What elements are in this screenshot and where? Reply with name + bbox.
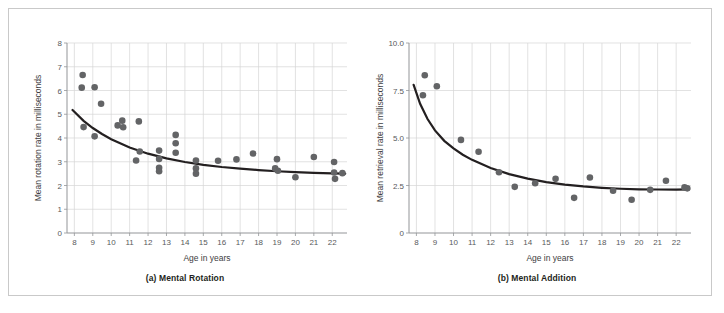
data-point [292,174,299,181]
x-tick-label: 12 [144,238,153,247]
data-point [458,137,465,144]
x-tick-label: 17 [236,238,245,247]
x-tick-label: 20 [635,238,644,247]
x-tick-label: 15 [199,238,208,247]
x-tick-label: 19 [616,238,625,247]
panel-b-caption: (b) Mental Addition [361,273,713,283]
data-point [136,118,143,125]
plot-mental-addition: 02.55.07.510.089101112131415161718192021… [361,9,713,297]
data-point [421,72,428,79]
data-point [193,157,200,164]
y-tick-label: 7 [58,63,63,72]
data-point [193,170,200,177]
data-point [98,101,105,108]
fit-curve [414,85,690,190]
x-tick-label: 17 [579,238,588,247]
y-axis-title: Mean rotation rate in milliseconds [33,75,43,202]
data-point [120,124,127,131]
fit-curve [73,110,346,174]
plot-mental-rotation: 0123456788910111213141516171819202122Age… [9,9,361,297]
x-tick-label: 13 [505,238,514,247]
x-tick-label: 11 [125,238,134,247]
y-tick-label: 10.0 [388,39,404,48]
panel-mental-rotation: 0123456788910111213141516171819202122Age… [9,9,361,297]
x-tick-label: 10 [449,238,458,247]
data-point [552,176,559,183]
data-point [684,185,691,192]
data-point [172,140,179,147]
x-tick-label: 8 [414,238,419,247]
data-point [275,167,282,174]
y-tick-label: 5.0 [393,134,405,143]
data-point [133,157,140,164]
x-tick-label: 16 [560,238,569,247]
data-point [91,84,98,91]
y-tick-label: 6 [58,87,63,96]
y-tick-label: 2.5 [393,182,405,191]
x-tick-label: 21 [309,238,318,247]
y-tick-label: 8 [58,39,63,48]
x-tick-label: 13 [162,238,171,247]
y-tick-label: 1 [58,205,63,214]
data-point [119,117,126,124]
y-axis-title: Mean retrieval rate in milliseconds [375,74,385,203]
x-tick-label: 9 [91,238,96,247]
data-point [663,177,670,184]
data-point [250,150,257,157]
panel-a-caption: (a) Mental Rotation [9,273,361,283]
x-tick-label: 21 [653,238,662,247]
data-point [311,154,318,161]
y-tick-label: 5 [58,110,63,119]
x-tick-label: 18 [254,238,263,247]
y-tick-label: 4 [58,134,63,143]
y-tick-label: 3 [58,158,63,167]
data-point [339,170,346,177]
data-point [156,147,163,154]
y-tick-label: 7.5 [393,87,405,96]
x-tick-label: 15 [542,238,551,247]
figure-frame: 0123456788910111213141516171819202122Age… [8,8,712,296]
panel-mental-addition: 02.55.07.510.089101112131415161718192021… [361,9,713,297]
x-tick-label: 14 [523,238,532,247]
x-tick-label: 10 [107,238,116,247]
data-point [136,148,143,155]
x-tick-label: 12 [486,238,495,247]
data-point [610,188,617,195]
data-point [156,156,163,163]
x-tick-label: 11 [468,238,477,247]
data-point [434,83,441,90]
x-tick-label: 9 [433,238,438,247]
x-tick-label: 16 [217,238,226,247]
data-point [172,132,179,139]
data-point [156,168,163,175]
data-point [91,133,98,140]
x-tick-label: 14 [180,238,189,247]
y-tick-label: 0 [400,229,405,238]
data-point [420,92,427,99]
data-point [215,158,222,165]
data-point [475,148,482,155]
data-point [628,196,635,203]
y-tick-label: 0 [58,229,63,238]
data-point [571,195,578,202]
data-point [331,169,338,176]
data-point [80,124,87,131]
data-point [172,149,179,156]
data-point [332,176,339,183]
data-point [496,169,503,176]
x-tick-label: 18 [597,238,606,247]
x-tick-label: 22 [672,238,681,247]
data-point [647,187,654,194]
x-tick-label: 8 [72,238,77,247]
data-point [78,84,85,91]
data-point [331,159,338,166]
x-tick-label: 20 [291,238,300,247]
data-point [274,156,281,163]
data-point [587,174,594,181]
x-tick-label: 19 [273,238,282,247]
data-point [511,184,518,191]
y-tick-label: 2 [58,182,63,191]
x-axis-title: Age in years [526,253,573,263]
x-tick-label: 22 [328,238,337,247]
data-point [233,156,240,163]
